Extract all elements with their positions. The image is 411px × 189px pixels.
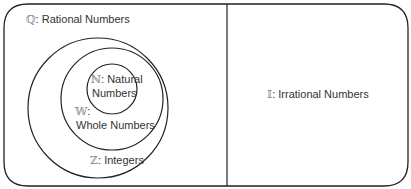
whole-colon: :	[87, 105, 90, 117]
irrational-text: : Irrational Numbers	[272, 88, 369, 100]
whole-label: Whole Numbers	[76, 119, 155, 132]
rational-text: : Rational Numbers	[36, 13, 130, 25]
natural-label-line2: Numbers	[92, 87, 137, 100]
rational-label: ℚ: Rational Numbers	[26, 13, 130, 26]
natural-text: : Natural	[101, 73, 143, 85]
integers-label: ℤ: Integers	[90, 154, 144, 167]
natural-label: ℕ: Natural	[91, 73, 143, 86]
integers-text: : Integers	[98, 154, 144, 166]
integers-symbol: ℤ	[90, 154, 98, 167]
natural-symbol: ℕ	[91, 73, 101, 86]
whole-symbol: 𝕎	[75, 105, 87, 118]
whole-symbol-label: 𝕎:	[75, 105, 90, 118]
irrational-label: 𝕀: Irrational Numbers	[267, 88, 369, 101]
rational-symbol: ℚ	[26, 13, 36, 26]
